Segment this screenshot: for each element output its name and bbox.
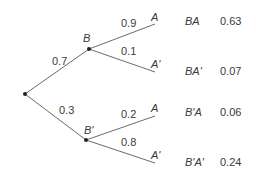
outcome-bprimea-value: 0.06 <box>220 106 241 118</box>
outcome-bprimeaprime: B'A' <box>185 156 204 168</box>
node-label-a-top: A <box>151 11 158 23</box>
prob-label-baprime: 0.1 <box>121 45 136 57</box>
outcome-ba-value: 0.63 <box>220 15 241 27</box>
node-b <box>87 47 91 51</box>
prob-label-ba: 0.9 <box>121 17 136 29</box>
node-label-aprime-bottom: A' <box>151 149 160 161</box>
branch-root-bprime <box>25 94 86 140</box>
prob-label-bprime: 0.3 <box>59 104 74 116</box>
outcome-ba: BA <box>185 15 200 27</box>
outcome-baprime: BA' <box>185 65 202 77</box>
outcome-baprime-value: 0.07 <box>220 65 241 77</box>
prob-label-b: 0.7 <box>52 55 67 67</box>
prob-label-bprimeaprime: 0.8 <box>121 136 136 148</box>
node-label-bprime: B' <box>84 124 93 136</box>
outcome-bprimeaprime-value: 0.24 <box>220 156 241 168</box>
node-label-a-bottom: A <box>151 102 158 114</box>
outcome-bprimea: B'A <box>185 106 202 118</box>
prob-label-bprimea: 0.2 <box>121 108 136 120</box>
root-node <box>23 92 27 96</box>
node-label-b: B <box>83 32 90 44</box>
node-bprime <box>84 138 88 142</box>
node-label-aprime-top: A' <box>151 58 160 70</box>
